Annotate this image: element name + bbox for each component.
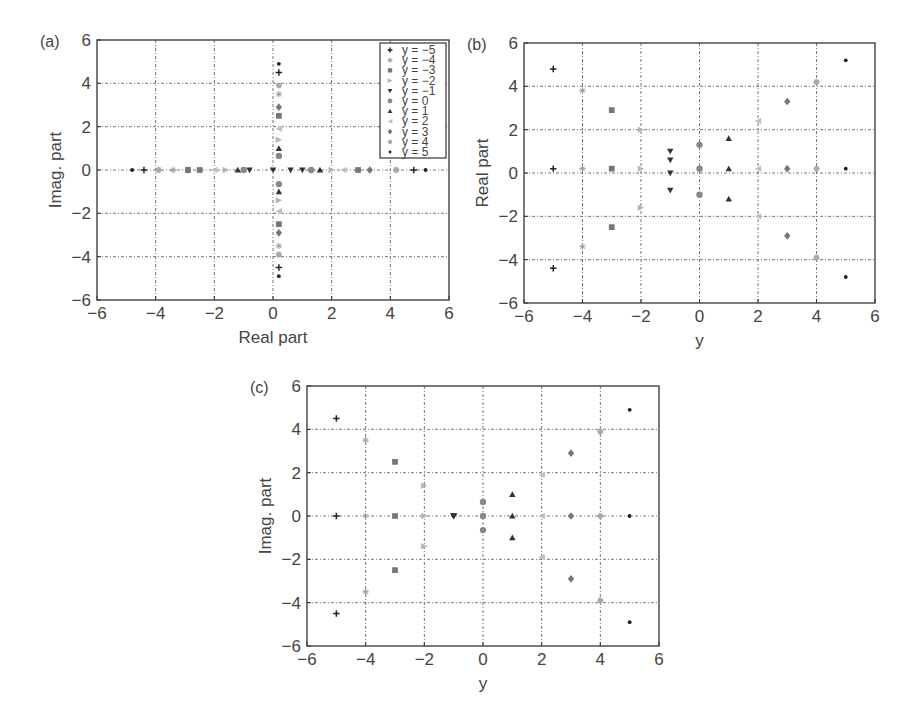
marker-circle-icon <box>696 165 702 171</box>
marker-square-icon <box>609 107 615 113</box>
marker-dot-icon <box>277 62 281 66</box>
x-tick-label: −4 <box>573 307 592 326</box>
x-tick-label: −2 <box>415 650 434 669</box>
marker-dot-icon <box>844 275 848 279</box>
y-tick-label: 2 <box>292 464 301 483</box>
marker-dot-icon <box>844 167 848 171</box>
x-axis-label: y <box>695 331 704 350</box>
y-tick-label: 0 <box>82 161 91 180</box>
x-axis-label: Real part <box>239 328 308 347</box>
x-axis-label: y <box>479 674 488 693</box>
marker-dot-icon <box>628 408 632 412</box>
x-tick-label: 2 <box>753 307 762 326</box>
marker-dot-icon <box>389 151 392 154</box>
x-tick-label: 2 <box>327 304 336 323</box>
marker-circle-icon <box>308 167 314 173</box>
y-tick-label: −2 <box>499 207 518 226</box>
y-tick-label: 2 <box>82 118 91 137</box>
x-tick-label: 4 <box>812 307 821 326</box>
marker-square-icon <box>388 68 392 72</box>
marker-square-icon <box>392 513 398 519</box>
y-tick-label: 0 <box>509 164 518 183</box>
marker-circle-icon <box>276 181 282 187</box>
marker-circle-icon <box>276 153 282 159</box>
figure: −6−4−20246−6−4−20246Real partImag. part(… <box>0 0 912 723</box>
x-tick-label: −2 <box>631 307 650 326</box>
marker-star-icon <box>388 58 393 63</box>
panel-letter: (b) <box>467 36 487 53</box>
y-axis-label: Imag. part <box>46 131 65 208</box>
x-tick-label: 4 <box>596 650 605 669</box>
x-tick-label: 6 <box>444 304 453 323</box>
chart-panel-a: −6−4−20246−6−4−20246Real partImag. part(… <box>40 31 454 347</box>
marker-star-icon <box>170 167 176 173</box>
marker-star-icon <box>579 243 585 249</box>
x-tick-label: −2 <box>205 304 224 323</box>
y-tick-label: −4 <box>499 251 518 270</box>
marker-circle-icon <box>240 167 246 173</box>
marker-square-icon <box>276 221 282 227</box>
marker-star-icon <box>579 165 585 171</box>
y-axis-label: Real part <box>473 138 492 207</box>
chart-panel-c: −6−4−20246−6−4−20246yImag. part(c) <box>250 377 664 693</box>
series <box>480 499 486 534</box>
x-tick-label: 6 <box>654 650 663 669</box>
x-tick-label: 0 <box>695 307 704 326</box>
marker-square-icon <box>276 113 282 119</box>
y-tick-label: −6 <box>72 291 91 310</box>
marker-circle-icon <box>480 513 486 519</box>
y-tick-label: −4 <box>282 594 301 613</box>
x-tick-label: 0 <box>478 650 487 669</box>
y-tick-label: 6 <box>292 377 301 396</box>
marker-circle-icon <box>388 99 393 104</box>
y-tick-label: 4 <box>509 77 518 96</box>
x-tick-label: 6 <box>870 307 879 326</box>
marker-star-icon <box>362 437 368 443</box>
y-tick-label: −6 <box>499 294 518 313</box>
legend-entry: y = 5 <box>402 145 429 159</box>
y-tick-label: 4 <box>82 74 91 93</box>
marker-circle-icon <box>696 142 702 148</box>
x-tick-label: 4 <box>386 304 395 323</box>
marker-square-icon <box>609 224 615 230</box>
x-tick-label: 2 <box>537 650 546 669</box>
y-tick-label: 0 <box>292 507 301 526</box>
marker-dot-icon <box>844 58 848 62</box>
marker-dot-icon <box>130 168 134 172</box>
marker-square-icon <box>392 459 398 465</box>
marker-circle-icon <box>480 499 486 505</box>
y-tick-label: −2 <box>72 204 91 223</box>
x-tick-label: −4 <box>146 304 165 323</box>
y-tick-label: 2 <box>509 121 518 140</box>
x-tick-label: 0 <box>268 304 277 323</box>
marker-dot-icon <box>424 168 428 172</box>
chart-panel-b: −6−4−20246−6−4−20246yReal part(b) <box>467 34 880 350</box>
y-tick-label: −2 <box>282 550 301 569</box>
marker-circle-icon <box>480 527 486 533</box>
marker-star-icon <box>362 513 368 519</box>
panel-letter: (c) <box>250 379 269 396</box>
marker-star-icon <box>362 589 368 595</box>
marker-star-icon <box>579 87 585 93</box>
marker-dot-icon <box>628 514 632 518</box>
y-tick-label: 4 <box>292 420 301 439</box>
legend: y = −5y = −4y = −3y = −2y = −1y = 0y = 1… <box>380 43 446 159</box>
y-tick-label: 6 <box>509 34 518 53</box>
marker-square-icon <box>197 167 203 173</box>
marker-circle-icon <box>696 191 702 197</box>
x-tick-label: −4 <box>356 650 375 669</box>
y-tick-label: −6 <box>282 637 301 656</box>
panel-letter: (a) <box>40 33 60 50</box>
y-axis-label: Imag. part <box>256 477 275 554</box>
marker-square-icon <box>609 166 615 172</box>
marker-square-icon <box>355 167 361 173</box>
marker-square-icon <box>392 567 398 573</box>
marker-dot-icon <box>277 274 281 278</box>
y-tick-label: 6 <box>82 31 91 50</box>
y-tick-label: −4 <box>72 248 91 267</box>
figure-canvas: −6−4−20246−6−4−20246Real partImag. part(… <box>0 0 912 723</box>
marker-dot-icon <box>628 620 632 624</box>
